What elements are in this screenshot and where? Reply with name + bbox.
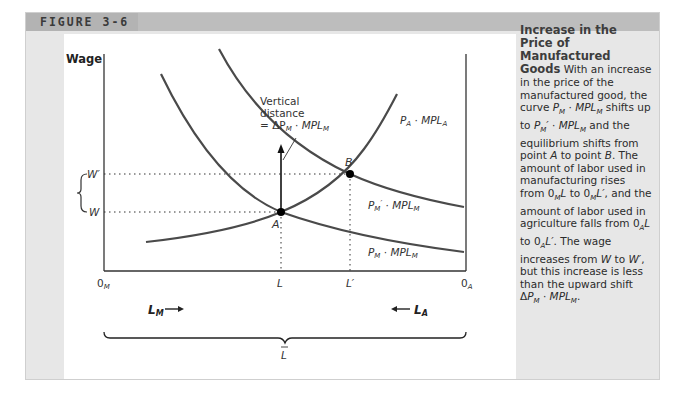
w-prime-tick: W′ xyxy=(87,168,100,180)
chart-svg: A B Wage W′ W ΔW Vertical distance = ΔPM… xyxy=(64,34,516,379)
caption-body: With an increase in the price of the man… xyxy=(520,63,652,302)
la-arrow-head-icon xyxy=(391,306,397,312)
lm-arrow-head-icon xyxy=(178,306,184,312)
annotation-line1: Vertical xyxy=(260,95,299,107)
delta-w-brace xyxy=(77,174,87,212)
total-labor-brace xyxy=(104,332,466,343)
l-tick: L xyxy=(277,277,283,289)
arrow-head-icon xyxy=(278,144,285,153)
annotation-line2: distance xyxy=(260,107,305,119)
point-a-label: A xyxy=(271,218,280,231)
caption: Increase in the Price of Manufactured Go… xyxy=(520,24,652,308)
label-pa-mpla: PA · MPLA xyxy=(400,114,447,128)
annotation-leader xyxy=(283,138,296,160)
lm-label: LM xyxy=(148,303,164,318)
curve-pm-prime-mplm xyxy=(219,49,464,207)
label-pm-prime-mplm: PM′ · MPLM xyxy=(368,199,420,213)
chart-panel: A B Wage W′ W ΔW Vertical distance = ΔPM… xyxy=(64,34,516,379)
figure-label: FIGURE 3-6 xyxy=(26,13,138,31)
l-prime-tick: L′ xyxy=(346,277,355,289)
total-labor-label: L xyxy=(281,349,287,361)
label-pm-mplm: PM · MPLM xyxy=(368,246,418,260)
point-b-label: B xyxy=(345,156,353,169)
y-axis-label: Wage xyxy=(66,52,102,66)
curve-pm-mplm xyxy=(161,74,464,252)
origin-m-label: 0M xyxy=(97,277,110,291)
w-tick: W xyxy=(89,206,100,218)
annotation-line3: = ΔPM · MPLM xyxy=(260,119,329,133)
point-b xyxy=(346,170,354,178)
origin-a-label: 0A xyxy=(461,277,473,291)
la-label: LA xyxy=(414,303,428,318)
point-a xyxy=(277,208,285,216)
